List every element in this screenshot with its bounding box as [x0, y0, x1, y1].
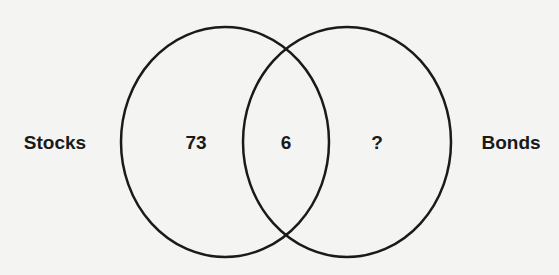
stocks-only-value: 73	[185, 133, 206, 152]
stocks-circle	[121, 27, 329, 257]
bonds-circle	[243, 27, 451, 257]
bonds-only-value: ?	[371, 133, 383, 152]
stocks-label: Stocks	[24, 133, 86, 152]
intersection-value: 6	[281, 133, 292, 152]
bonds-label: Bonds	[481, 133, 540, 152]
